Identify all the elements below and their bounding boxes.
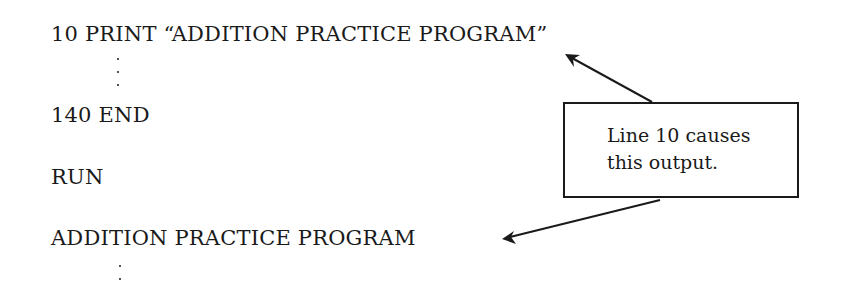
arrow-up-to-line-10-icon <box>565 54 652 102</box>
arrows-layer <box>0 0 852 283</box>
arrow-to-output-icon <box>502 200 660 244</box>
